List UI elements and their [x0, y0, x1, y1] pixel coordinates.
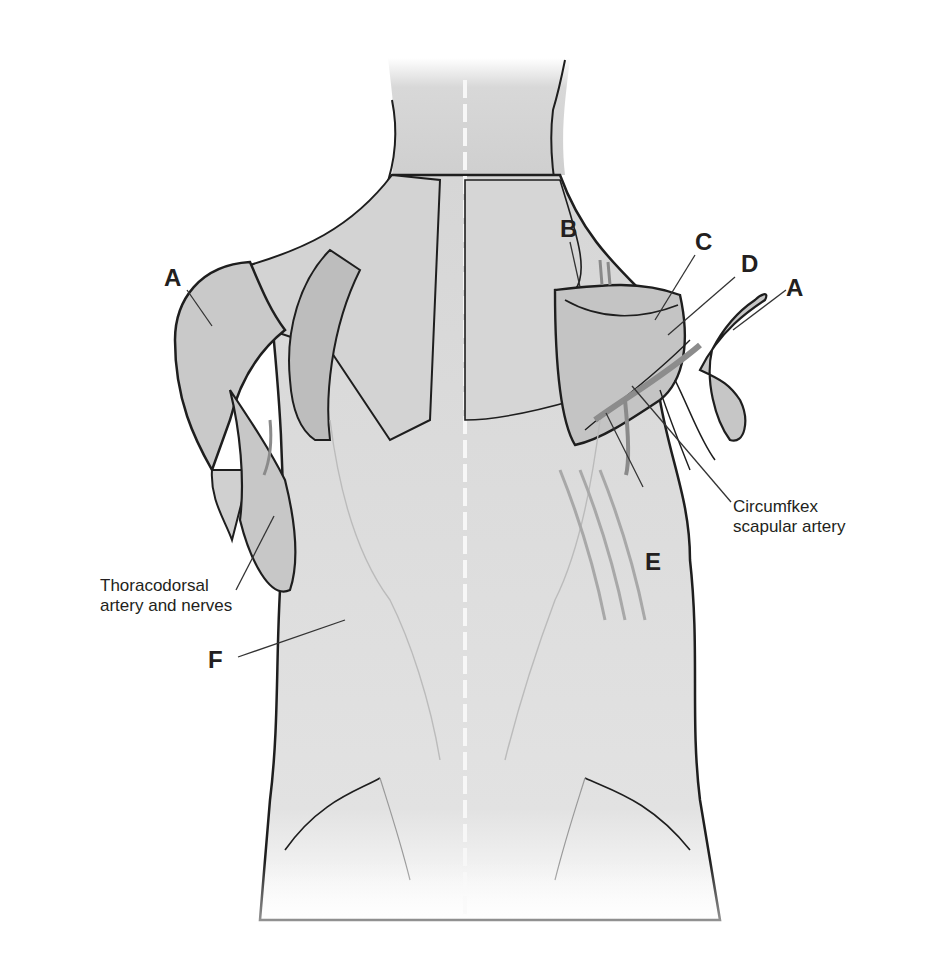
- label-e: E: [645, 550, 661, 574]
- label-d: D: [741, 252, 758, 276]
- caption-circumflex-scapular-artery: Circumfkex scapular artery: [733, 497, 845, 537]
- right-humerus-muscle: [700, 294, 766, 440]
- neck: [388, 58, 570, 175]
- label-b: B: [560, 217, 577, 241]
- label-f: F: [208, 648, 223, 672]
- label-a-left: A: [164, 266, 181, 290]
- back-muscle-illustration: [0, 0, 935, 978]
- label-a-right: A: [786, 276, 803, 300]
- label-c: C: [695, 230, 712, 254]
- caption-thoracodorsal-artery: Thoracodorsal artery and nerves: [100, 576, 232, 616]
- anatomy-figure: A B C D A E F Circumfkex scapular artery…: [0, 0, 935, 978]
